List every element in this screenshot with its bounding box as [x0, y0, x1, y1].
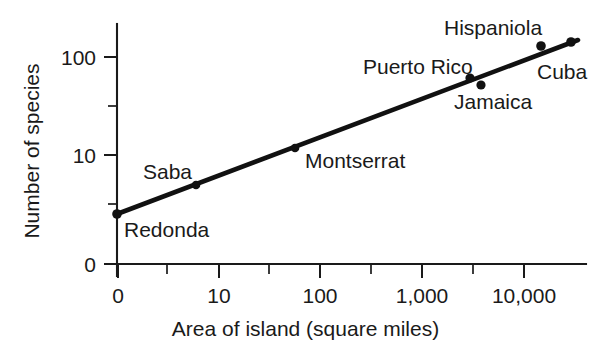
point-label-jamaica: Jamaica: [454, 91, 532, 112]
data-point-cuba[interactable]: [566, 37, 576, 47]
x-axis-title: Area of island (square miles): [0, 318, 611, 339]
x-axis-group: [108, 264, 586, 278]
x-tick-label-0: 0: [93, 285, 143, 306]
data-point-redonda[interactable]: [112, 209, 122, 219]
x-tick-label-10000: 10,000: [474, 285, 574, 306]
y-axis-title-wrapper: Number of species: [21, 31, 47, 271]
y-tick-label-0: 0: [44, 254, 96, 275]
point-label-montserrat: Montserrat: [305, 150, 405, 171]
point-label-cuba: Cuba: [537, 61, 587, 82]
data-point-jamaica[interactable]: [476, 80, 485, 89]
point-label-redonda: Redonda: [124, 219, 209, 240]
x-tick-label-100: 100: [290, 285, 350, 306]
data-point-montserrat[interactable]: [291, 144, 300, 153]
y-tick-label-10: 10: [44, 145, 96, 166]
data-point-saba[interactable]: [192, 181, 201, 190]
y-axis-group: [104, 24, 117, 276]
species-area-chart: 100 10 0 0 10 100 1,000 10,000 Redonda S…: [0, 0, 611, 353]
point-label-hispaniola: Hispaniola: [444, 17, 542, 38]
point-label-saba: Saba: [143, 161, 192, 182]
x-tick-label-1000: 1,000: [382, 285, 462, 306]
y-axis-title: Number of species: [20, 63, 43, 238]
point-label-puerto-rico: Puerto Rico: [363, 56, 473, 77]
regression-line: [117, 40, 578, 214]
x-tick-label-10: 10: [194, 285, 244, 306]
y-tick-label-100: 100: [44, 47, 96, 68]
data-point-hispaniola[interactable]: [536, 41, 546, 51]
